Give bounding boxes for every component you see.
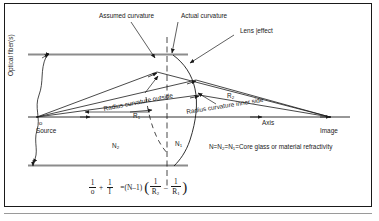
label-n2: N2 — [112, 143, 119, 150]
minus-operator: – — [164, 183, 168, 192]
equals-n-minus-one: =(N–1) — [120, 183, 142, 192]
source-point-dot — [36, 116, 38, 118]
n2-subscript: 2 — [117, 145, 119, 150]
r2-subscript: 2 — [232, 95, 234, 100]
close-paren: ) — [182, 181, 187, 193]
numerator-1c: 1 — [152, 178, 159, 186]
label-source: Source — [36, 128, 56, 134]
fraction-one-over-o: 1 o — [89, 179, 96, 196]
fraction-one-over-r2: 1 R2 — [150, 178, 160, 197]
plus-operator: + — [99, 183, 103, 192]
label-n1: N1 — [175, 141, 182, 148]
ray-upper-incident — [37, 72, 157, 117]
label-refractivity-note: N=N2=N1=Core glass or material refractiv… — [209, 144, 332, 151]
label-image: Image — [320, 128, 338, 134]
refractivity-part-2: =N — [224, 143, 232, 150]
label-axis: Axis — [262, 120, 274, 126]
numerator-1d: 1 — [173, 178, 180, 186]
fraction-one-over-r1: 1 R1 — [171, 178, 181, 197]
figure-container: Assumed curvature Actual curvature Lens … — [0, 0, 379, 221]
denominator-r1-sub: 1 — [177, 191, 179, 196]
label-actual-curvature: Actual curvature — [181, 13, 227, 19]
label-assumed-curvature: Assumed curvature — [99, 13, 154, 19]
ray-upper-refracted — [157, 72, 330, 117]
refractivity-part-1: N=N — [209, 143, 222, 150]
numerator-1a: 1 — [89, 179, 96, 187]
denominator-r2: R2 — [150, 186, 160, 196]
denominator-i: I — [107, 187, 112, 196]
leader-assumed-curvature — [131, 22, 155, 58]
label-source-point: o — [39, 120, 42, 126]
lens-equation: 1 o + 1 I =(N–1) ( 1 R2 – 1 R1 ) — [88, 178, 187, 197]
n1-subscript: 1 — [180, 143, 182, 148]
label-r2: R2 — [227, 93, 234, 100]
assumed-curvature-arc — [146, 97, 168, 154]
fraction-one-over-i: 1 I — [106, 179, 113, 196]
denominator-o: o — [89, 187, 96, 196]
leader-lens-effect — [190, 35, 234, 63]
refractivity-part-3: =Core glass or material refractivity — [235, 143, 332, 150]
denominator-r2-sub: 2 — [157, 191, 159, 196]
label-optical-fiber: Optical fiber(s) — [8, 34, 14, 76]
label-lens-effect: Lens |effect — [240, 28, 273, 34]
leader-actual-curvature — [172, 22, 178, 53]
label-r1: R1 — [133, 113, 140, 120]
optical-fiber-bracket — [33, 57, 46, 163]
leader-radius-inner — [198, 93, 216, 104]
r1-subscript: 1 — [138, 115, 140, 120]
open-paren: ( — [144, 181, 149, 193]
denominator-r1: R1 — [171, 186, 181, 196]
numerator-1b: 1 — [106, 179, 113, 187]
image-point-dot — [329, 116, 331, 118]
